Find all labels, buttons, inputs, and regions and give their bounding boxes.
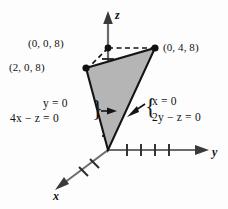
right-brace: { — [145, 95, 156, 118]
y-axis-label: y — [212, 146, 217, 158]
point-dot-0-0-8 — [105, 45, 112, 52]
diagram-canvas — [0, 0, 228, 209]
point-dot-2-0-8 — [82, 64, 89, 71]
y-axis — [108, 145, 209, 155]
left-equation-line-2: 4x − z = 0 — [10, 113, 59, 125]
right-annotation-arrow — [127, 104, 145, 117]
x-axis-ticks — [79, 159, 99, 176]
left-equation-line-1: y = 0 — [43, 98, 68, 110]
point-label-0-0-8: (0, 0, 8) — [28, 38, 64, 49]
point-label-2-0-8: (2, 0, 8) — [9, 62, 45, 73]
point-dot-0-4-8 — [151, 44, 158, 51]
left-brace: } — [92, 97, 103, 120]
x-axis-label: x — [53, 190, 59, 202]
figure-3d-triangular-region: (0, 0, 8) (0, 4, 8) (2, 0, 8) z y x y = … — [0, 0, 228, 209]
point-label-0-4-8: (0, 4, 8) — [163, 42, 199, 53]
right-equation-line-2: 2y − z = 0 — [152, 112, 201, 124]
z-axis-label: z — [115, 9, 120, 21]
